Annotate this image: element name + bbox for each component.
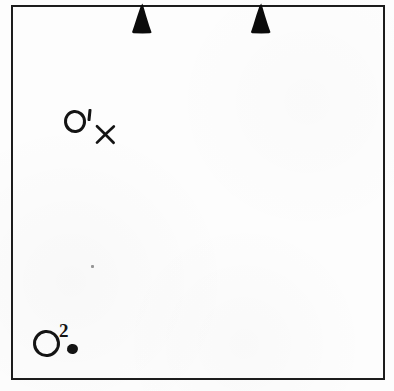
figure-canvas: 2 [0, 0, 394, 391]
scan-speck-artifact [91, 265, 94, 268]
triangle-marker-right [249, 3, 273, 34]
cross-glyph-x [95, 124, 116, 145]
triangle-marker-left [130, 3, 154, 34]
superscript-two-label: 2 [59, 321, 69, 340]
